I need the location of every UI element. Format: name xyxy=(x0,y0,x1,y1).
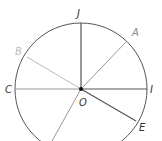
radius-oa xyxy=(81,42,126,89)
label-o: O xyxy=(79,97,87,108)
radius-ob xyxy=(27,57,81,89)
label-c: C xyxy=(5,84,12,95)
radius-oe xyxy=(81,89,136,121)
label-e: E xyxy=(139,122,146,133)
radius-lower xyxy=(52,89,81,141)
label-b: B xyxy=(15,46,22,57)
label-j: J xyxy=(75,8,80,19)
center-point xyxy=(79,87,83,91)
circle-diagram: J A I E C B O xyxy=(0,0,162,141)
label-a: A xyxy=(131,27,139,38)
label-i: I xyxy=(150,84,153,95)
